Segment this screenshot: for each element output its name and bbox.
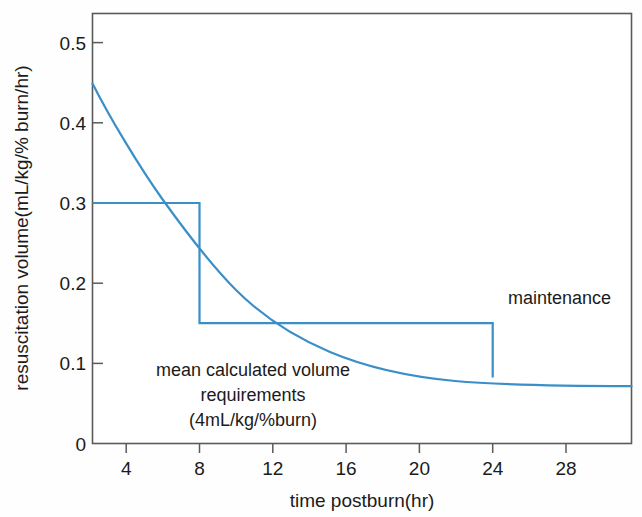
x-axis-tick-labels: 4 8 12 16 20 24 28 — [121, 458, 577, 479]
x-axis-ticks — [126, 444, 566, 454]
x-tick-label-4: 4 — [121, 458, 132, 479]
y-tick-label-0: 0.5 — [60, 33, 86, 54]
y-tick-label-3: 0.2 — [60, 273, 86, 294]
x-tick-label-28: 28 — [555, 458, 576, 479]
y-tick-label-1: 0.4 — [60, 113, 87, 134]
x-tick-label-24: 24 — [482, 458, 504, 479]
y-axis-title: resuscitation volume(mL/kg/% burn/hr) — [11, 65, 32, 390]
x-tick-label-20: 20 — [409, 458, 430, 479]
x-tick-label-12: 12 — [262, 458, 283, 479]
annotation-mean-line-3: (4mL/kg/%burn) — [189, 410, 317, 430]
y-tick-label-4: 0.1 — [60, 353, 86, 374]
annotation-mean-line-2: requirements — [200, 385, 305, 405]
x-tick-label-8: 8 — [194, 458, 205, 479]
annotation-maintenance: maintenance — [508, 288, 611, 308]
chart-canvas: 0.5 0.4 0.3 0.2 0.1 0 resuscitation volu… — [0, 0, 642, 517]
y-axis-tick-labels: 0.5 0.4 0.3 0.2 0.1 0 — [60, 33, 87, 455]
figure-root: 0.5 0.4 0.3 0.2 0.1 0 resuscitation volu… — [0, 0, 642, 517]
annotation-mean-line-1: mean calculated volume — [156, 360, 350, 380]
x-tick-label-16: 16 — [336, 458, 357, 479]
x-axis-title: time postburn(hr) — [290, 490, 435, 511]
y-tick-label-5: 0 — [75, 434, 86, 455]
y-tick-label-2: 0.3 — [60, 193, 86, 214]
